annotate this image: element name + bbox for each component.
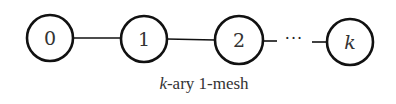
node-2-label: 2	[233, 29, 245, 51]
diagram-caption: k-ary 1-mesh	[0, 74, 396, 94]
ellipsis: ···	[285, 29, 303, 48]
node-0-label: 0	[44, 27, 56, 49]
node-1-label: 1	[138, 28, 150, 50]
node-k-label: k	[344, 31, 356, 53]
caption-variable: k	[159, 74, 167, 93]
edge-1-2	[167, 39, 215, 40]
caption-text: -ary 1-mesh	[167, 74, 249, 93]
